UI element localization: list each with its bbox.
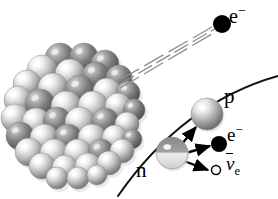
inset-electron-dot xyxy=(211,136,227,152)
emitted-electron-track xyxy=(120,24,218,89)
neutron-sphere-highlight xyxy=(163,144,171,149)
antineutrino-flavor-subscript: e xyxy=(234,164,240,178)
nucleon-light xyxy=(67,167,89,189)
electron-symbol-base: e xyxy=(229,5,238,27)
arrow-to-electron xyxy=(186,146,210,153)
label-antineutrino: νe xyxy=(226,154,240,177)
track-line xyxy=(120,27,218,84)
inset-electron-charge-superscript: − xyxy=(235,122,242,137)
antineutrino-circle xyxy=(212,166,221,175)
label-inset-electron: e− xyxy=(227,123,243,144)
track-line xyxy=(120,24,218,80)
proton-sphere xyxy=(191,98,223,130)
label-neutron: n xyxy=(136,160,147,181)
nucleon-light xyxy=(46,167,68,189)
label-emitted-electron: e− xyxy=(229,4,246,26)
label-proton: p xyxy=(224,86,235,107)
nucleon-light xyxy=(87,165,107,185)
beta-decay-figure: e− p e− νe n xyxy=(0,0,278,199)
neutron-sphere xyxy=(156,137,188,169)
proton-sphere-highlight xyxy=(198,105,206,110)
antineutrino-symbol-base: ν xyxy=(226,154,234,173)
atomic-nucleus xyxy=(1,43,148,192)
track-line xyxy=(120,30,218,88)
electron-charge-superscript: − xyxy=(238,3,246,18)
